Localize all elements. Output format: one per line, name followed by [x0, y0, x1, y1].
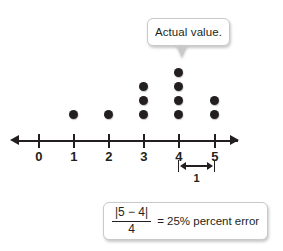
- fraction-denominator: 4: [128, 222, 135, 237]
- data-dot: [174, 110, 183, 119]
- data-dot: [210, 110, 219, 119]
- axis-tick: [73, 134, 75, 148]
- data-dot: [139, 96, 148, 105]
- axis-arrow-right-icon: [230, 135, 239, 145]
- data-dot: [174, 82, 183, 91]
- data-dot: [210, 96, 219, 105]
- dot-plot-figure: Actual value. 0 1 2 3 4 5 1: [0, 0, 283, 251]
- axis-tick-label-2: 2: [99, 149, 119, 164]
- difference-bracket: [178, 160, 215, 172]
- data-dot: [139, 82, 148, 91]
- data-dot: [139, 110, 148, 119]
- bracket-arrow-right-icon: [207, 162, 213, 170]
- actual-value-callout-tail: [176, 45, 188, 58]
- axis-tick: [108, 134, 110, 148]
- axis-tick: [214, 134, 216, 148]
- axis-tick-label-1: 1: [64, 149, 84, 164]
- axis-arrow-left-icon: [10, 135, 19, 145]
- data-dot: [174, 96, 183, 105]
- data-dot: [69, 110, 78, 119]
- axis-tick: [143, 134, 145, 148]
- axis-tick-label-0: 0: [29, 149, 49, 164]
- percent-error-formula: |5 − 4| 4 = 25% percent error: [112, 206, 259, 237]
- bracket-end-right: [214, 160, 215, 172]
- axis-tick-label-3: 3: [134, 149, 154, 164]
- difference-bracket-label: 1: [178, 172, 215, 184]
- percent-error-fraction: |5 − 4| 4: [112, 206, 151, 237]
- actual-value-callout: Actual value.: [147, 18, 230, 46]
- actual-value-callout-label: Actual value.: [155, 26, 222, 38]
- axis-tick: [38, 134, 40, 148]
- fraction-numerator: |5 − 4|: [112, 206, 151, 221]
- axis-tick: [178, 134, 180, 148]
- bracket-arrow-left-icon: [180, 162, 186, 170]
- percent-error-callout: |5 − 4| 4 = 25% percent error: [103, 202, 268, 240]
- percent-error-result: = 25% percent error: [157, 215, 259, 227]
- data-dot: [104, 110, 113, 119]
- number-line-axis: [16, 140, 238, 142]
- data-dot: [174, 68, 183, 77]
